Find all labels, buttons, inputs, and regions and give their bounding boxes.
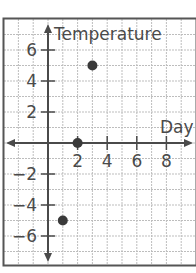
x-tick-label: 8 [161, 151, 172, 171]
data-point [87, 61, 97, 71]
x-tick-label: 6 [131, 151, 142, 171]
x-axis-left-arrow-icon [6, 139, 15, 147]
data-point [73, 138, 83, 148]
y-axis-title: Temperature [53, 24, 162, 44]
x-axis-right-arrow-icon [184, 139, 193, 147]
y-tick-label: 2 [26, 102, 37, 122]
y-axis-up-arrow-icon [44, 24, 52, 33]
y-tick-label: −2 [12, 164, 37, 184]
x-tick-label: 4 [102, 151, 113, 171]
coordinate-plane: 2468642−2−4−6 Temperature Day [0, 0, 196, 273]
y-tick-label: 4 [26, 71, 37, 91]
y-tick-label: −4 [12, 195, 37, 215]
data-point [58, 216, 68, 226]
y-axis-down-arrow-icon [44, 253, 52, 262]
y-tick-label: −6 [12, 226, 37, 246]
y-tick-label: 6 [26, 40, 37, 60]
x-axis-title: Day [160, 117, 194, 137]
x-tick-label: 2 [72, 151, 83, 171]
